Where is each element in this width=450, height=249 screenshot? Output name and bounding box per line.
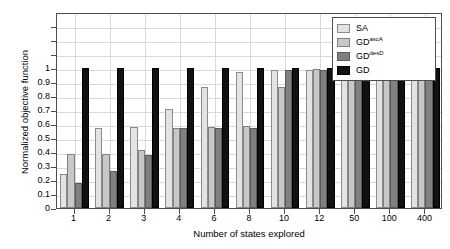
bar <box>95 128 102 209</box>
bar <box>383 69 390 208</box>
legend-label: GDdesD <box>356 52 384 61</box>
bar <box>236 72 243 208</box>
bar <box>411 69 418 208</box>
legend-swatch-icon <box>337 38 350 47</box>
x-tick-label: 1 <box>54 213 94 224</box>
legend-label: GDascA <box>356 38 383 47</box>
chart-legend: SAGDascAGDdesDGD <box>332 17 436 81</box>
bar <box>152 68 159 208</box>
legend-label: SA <box>356 24 368 33</box>
bar <box>243 126 250 208</box>
bar <box>306 70 313 208</box>
bar <box>320 70 327 208</box>
y-tick-label: 0.7 <box>22 106 50 115</box>
bar <box>180 128 187 208</box>
bar <box>215 128 222 208</box>
x-tick-label: 10 <box>264 213 304 224</box>
bar <box>433 68 440 208</box>
bar <box>285 70 292 208</box>
bar <box>117 68 124 208</box>
x-tick-label: 4 <box>159 213 199 224</box>
bar <box>110 171 117 208</box>
bar <box>327 68 334 208</box>
y-tick-label: 0 <box>22 204 50 213</box>
bar <box>425 71 432 208</box>
y-tick-label: 0.8 <box>22 92 50 101</box>
bar <box>187 68 194 208</box>
bar <box>102 154 109 208</box>
bar <box>257 68 264 208</box>
bar <box>222 68 229 208</box>
legend-swatch-icon <box>337 66 350 75</box>
bar <box>67 154 74 208</box>
bar <box>341 70 348 208</box>
bar <box>390 71 397 208</box>
legend-item: SA <box>337 21 431 35</box>
bar <box>348 69 355 208</box>
y-tick-label: 0.3 <box>22 162 50 171</box>
x-tick-label: 400 <box>404 213 444 224</box>
bar <box>278 87 285 208</box>
y-tick-label: 0.4 <box>22 148 50 157</box>
y-tick-label: 0.2 <box>22 176 50 185</box>
y-tick-label: 0.1 <box>22 190 50 199</box>
y-tick-label: 0.5 <box>22 134 50 143</box>
x-tick-label: 50 <box>334 213 374 224</box>
x-tick-label: 6 <box>194 213 234 224</box>
bar <box>82 68 89 208</box>
x-tick-label: 3 <box>124 213 164 224</box>
bar <box>60 174 67 208</box>
x-tick-label: 2 <box>89 213 129 224</box>
bar <box>376 70 383 208</box>
y-tick-label: 0.9 <box>22 78 50 87</box>
x-axis-title: Number of states explored <box>56 228 442 239</box>
bar <box>398 68 405 208</box>
y-tick-label: 1 <box>22 64 50 73</box>
bar <box>292 68 299 208</box>
bar <box>271 70 278 208</box>
bar <box>250 128 257 208</box>
bar <box>173 128 180 208</box>
bar <box>75 183 82 208</box>
y-tick-mark <box>51 209 56 210</box>
y-tick-label: 0.6 <box>22 120 50 129</box>
x-tick-label: 8 <box>229 213 269 224</box>
legend-item: GDdesD <box>337 49 431 63</box>
bar <box>145 155 152 208</box>
bar-chart-figure: Normalized objective function 00.10.20.3… <box>0 0 450 249</box>
x-tick-label: 100 <box>369 213 409 224</box>
legend-label: GD <box>356 66 370 75</box>
bar <box>362 68 369 208</box>
x-tick-label: 12 <box>299 213 339 224</box>
bar <box>208 127 215 208</box>
bar <box>130 127 137 208</box>
bar <box>138 150 145 208</box>
bar <box>165 109 172 208</box>
bar <box>355 70 362 208</box>
legend-item: GD <box>337 63 431 77</box>
legend-item: GDascA <box>337 35 431 49</box>
bar <box>201 87 208 208</box>
legend-swatch-icon <box>337 52 350 61</box>
bar <box>313 69 320 208</box>
bar <box>418 69 425 208</box>
legend-swatch-icon <box>337 24 350 33</box>
